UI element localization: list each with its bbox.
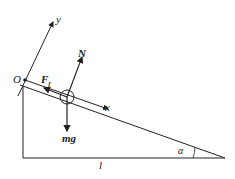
length-label: l <box>99 160 102 171</box>
x-axis-label: x <box>105 102 110 113</box>
incline-figure <box>0 0 235 179</box>
origin-label: O <box>13 74 21 85</box>
normal-force-label: N <box>78 48 86 59</box>
weight-label: mg <box>62 133 76 144</box>
normal-force-arrow <box>67 57 82 97</box>
friction-label: Ff <box>41 74 51 88</box>
friction-arrow <box>44 88 67 97</box>
incline-surface <box>20 85 225 158</box>
diagram: O y x N Ff mg l α <box>0 0 235 179</box>
angle-arc <box>193 147 195 158</box>
angle-label: α <box>178 146 183 156</box>
origin-dot <box>23 78 27 82</box>
y-axis-label: y <box>56 14 61 25</box>
